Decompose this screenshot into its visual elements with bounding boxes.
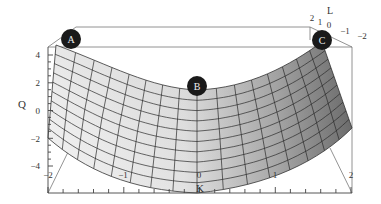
k-tick-label: −2 xyxy=(43,170,53,180)
q-axis-label: Q xyxy=(18,98,26,110)
k-tick-label: 2 xyxy=(349,170,354,180)
l-tick-label: −2 xyxy=(357,31,367,41)
q-tick-label: −2 xyxy=(30,134,40,144)
k-axis-label: K xyxy=(196,182,204,194)
q-tick-label: −4 xyxy=(30,161,40,171)
l-tick-label: −1 xyxy=(340,26,350,36)
marker-a: A xyxy=(61,29,81,49)
q-tick-labels: 420−2−4 xyxy=(30,50,40,171)
k-tick-labels: −2−1012 xyxy=(43,170,353,180)
marker-c: C xyxy=(312,30,332,50)
l-axis-label: L xyxy=(327,5,333,16)
surface-plot: 420−2−4 −2−1012 210−1−2 Q K L ABC xyxy=(0,0,381,204)
marker-b: B xyxy=(187,76,207,96)
l-tick-label: 0 xyxy=(327,20,332,30)
svg-text:B: B xyxy=(194,81,201,92)
q-tick-label: 2 xyxy=(36,78,41,88)
plot-canvas: 420−2−4 −2−1012 210−1−2 Q K L ABC xyxy=(0,0,381,204)
svg-text:A: A xyxy=(67,34,75,45)
k-tick-label: 0 xyxy=(197,170,202,180)
l-tick-label: 2 xyxy=(310,13,315,23)
q-tick-label: 0 xyxy=(36,106,41,116)
k-tick-label: 1 xyxy=(273,170,278,180)
svg-text:C: C xyxy=(319,35,326,46)
q-tick-label: 4 xyxy=(36,50,41,60)
k-tick-label: −1 xyxy=(118,170,128,180)
l-tick-label: 1 xyxy=(318,17,323,27)
